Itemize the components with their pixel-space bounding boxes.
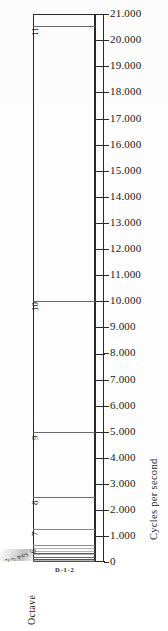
gridline-octave-9	[33, 432, 96, 433]
y-axis-label-8000: 8.000	[110, 347, 136, 358]
y-tick	[104, 275, 109, 276]
y-tick	[104, 92, 109, 93]
gridline-octave-6	[33, 545, 96, 546]
octave-label-9: 9	[31, 436, 40, 441]
gridline-octave-7	[33, 529, 96, 530]
y-axis-label-6000: 6.000	[110, 400, 136, 411]
y-axis-label-21000: 21.000	[110, 8, 141, 19]
y-tick	[104, 223, 109, 224]
y-axis-label-10000: 10.000	[110, 295, 141, 306]
frequency-axis-ladder	[95, 14, 104, 562]
octave-label-7: 7	[31, 532, 40, 537]
octave-frequency-figure: 11 10 9 8 7 6 5 4 3 2	[0, 0, 168, 631]
y-tick	[104, 432, 109, 433]
octave-label-2: 2	[2, 559, 11, 562]
y-tick	[104, 14, 109, 15]
y-axis-label-17000: 17.000	[110, 113, 141, 124]
y-tick	[104, 66, 109, 67]
y-axis-label-5000: 5.000	[110, 426, 136, 437]
y-tick	[104, 406, 109, 407]
y-axis-label-0: 0	[110, 556, 116, 567]
y-tick	[104, 197, 109, 198]
y-tick	[104, 484, 109, 485]
gridline-octave-11	[33, 26, 96, 27]
figure-caption: D-1-2	[55, 566, 75, 573]
gridline-octave-8	[33, 497, 96, 498]
y-tick	[104, 380, 109, 381]
y-tick	[104, 171, 109, 172]
y-tick	[104, 458, 109, 459]
y-axis-label-12000: 12.000	[110, 243, 141, 254]
y-axis-label-15000: 15.000	[110, 165, 141, 176]
y-tick	[104, 510, 109, 511]
y-axis-label-4000: 4.000	[110, 452, 136, 463]
y-tick	[104, 119, 109, 120]
compressed-octave-band	[33, 548, 96, 562]
y-tick	[104, 40, 109, 41]
y-tick	[104, 249, 109, 250]
octave-label-8: 8	[31, 501, 40, 506]
y-axis-label-1000: 1.000	[110, 530, 136, 541]
y-tick	[104, 562, 109, 563]
octave-label-10: 10	[31, 302, 40, 311]
y-axis-title: Cycles per second	[148, 459, 159, 541]
y-tick	[104, 327, 109, 328]
y-axis-label-7000: 7.000	[110, 374, 136, 385]
gridline-octave-10	[33, 301, 96, 302]
y-tick	[104, 353, 109, 354]
y-tick	[104, 536, 109, 537]
y-axis-label-11000: 11.000	[110, 269, 141, 280]
y-tick	[104, 145, 109, 146]
octave-label-6: 6	[29, 549, 38, 553]
y-axis-label-9000: 9.000	[110, 321, 136, 332]
y-axis-label-16000: 16.000	[110, 139, 141, 150]
y-tick	[104, 301, 109, 302]
ladder-rung	[96, 354, 105, 355]
y-axis-label-20000: 20.000	[110, 34, 141, 45]
y-axis-label-14000: 14.000	[110, 191, 141, 202]
y-axis-label-19000: 19.000	[110, 60, 141, 71]
y-axis-label-18000: 18.000	[110, 86, 141, 97]
y-axis-label-2000: 2.000	[110, 504, 136, 515]
plot-area	[33, 14, 95, 562]
y-axis-label-3000: 3.000	[110, 478, 136, 489]
octave-label-11: 11	[31, 27, 40, 36]
y-axis-label-13000: 13.000	[110, 217, 141, 228]
x-axis-title: Octave	[26, 595, 37, 625]
